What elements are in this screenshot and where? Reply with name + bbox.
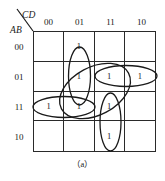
kmap-cell-r0c3 [125,32,155,62]
row-header-1: 01 [8,73,30,82]
figure-caption: （a） [0,160,165,169]
kmap-cell-r2c0: 1 [34,92,64,122]
kmap-cell-r2c2: 1 [95,92,125,122]
kmap-cell-r1c0 [34,62,64,92]
column-header-3: 10 [126,18,157,27]
kmap-cell-r3c2: 1 [95,121,125,151]
column-header-2: 11 [95,18,126,27]
kmap-cell-r2c3 [125,92,155,122]
cell-value: 1 [77,72,81,81]
cell-value: 1 [138,72,142,81]
kmap-cell-r0c1: 1 [64,32,94,62]
kmap-cell-r0c0 [34,32,64,62]
cell-value: 1 [107,72,111,81]
cell-value: 1 [77,102,81,111]
cell-value: 1 [107,132,111,141]
row-header-0: 00 [8,43,30,52]
karnaugh-map-figure: CD AB 00 01 11 10 00 01 11 10 1 1 1 1 1 … [0,0,165,181]
cell-value: 1 [77,42,81,51]
row-header-3: 10 [8,133,30,142]
kmap-grid: 1 1 1 1 1 1 1 1 [33,31,156,152]
kmap-cell-r3c0 [34,121,64,151]
kmap-cell-r3c3 [125,121,155,151]
column-header-1: 01 [64,18,95,27]
kmap-cell-r0c2 [95,32,125,62]
kmap-cell-r1c3: 1 [125,62,155,92]
row-header-2: 11 [8,103,30,112]
cell-value: 1 [47,102,51,111]
kmap-cell-r1c2: 1 [95,62,125,92]
row-variable-label: AB [10,26,22,36]
kmap-cell-r3c1 [64,121,94,151]
kmap-cell-r1c1: 1 [64,62,94,92]
kmap-cell-r2c1: 1 [64,92,94,122]
cell-value: 1 [107,102,111,111]
column-header-0: 00 [33,18,64,27]
